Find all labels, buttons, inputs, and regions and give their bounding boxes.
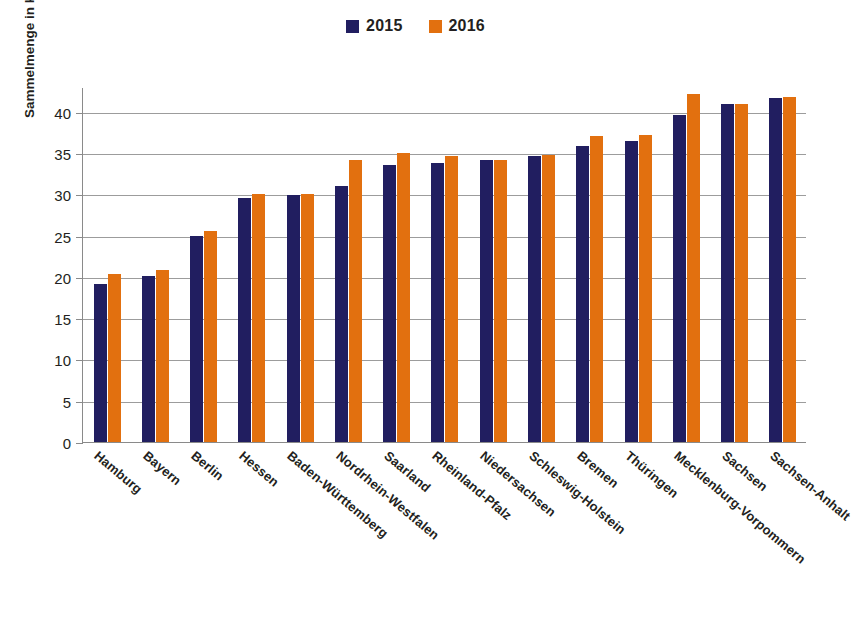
bar-group[interactable] (324, 88, 372, 442)
legend-swatch-2016 (429, 20, 442, 33)
y-tick-label: 40 (54, 104, 71, 121)
y-tick-mark (76, 154, 83, 155)
bar-2016[interactable] (108, 274, 121, 442)
bar-2016[interactable] (590, 136, 603, 442)
bar-2015[interactable] (625, 141, 638, 442)
legend-item-2016[interactable]: 2016 (429, 18, 485, 34)
y-tick-label: 30 (54, 187, 71, 204)
y-tick-label: 5 (63, 393, 71, 410)
bar-group[interactable] (566, 88, 614, 442)
y-tick-mark (76, 278, 83, 279)
bar-group[interactable] (131, 88, 179, 442)
bar-group[interactable] (83, 88, 131, 442)
chart-legend: 2015 2016 (0, 18, 831, 34)
bar-2015[interactable] (480, 160, 493, 442)
bar-group[interactable] (517, 88, 565, 442)
bar-2016[interactable] (445, 156, 458, 442)
bar-2015[interactable] (142, 276, 155, 442)
legend-label-2016: 2016 (449, 18, 485, 34)
bar-2016[interactable] (301, 194, 314, 443)
bar-2015[interactable] (190, 236, 203, 442)
y-tick-label: 25 (54, 228, 71, 245)
bar-group[interactable] (469, 88, 517, 442)
bar-2015[interactable] (287, 195, 300, 442)
bar-2015[interactable] (528, 156, 541, 442)
bar-2015[interactable] (431, 163, 444, 442)
y-tick-label: 20 (54, 269, 71, 286)
y-tick-mark (76, 443, 83, 444)
y-tick-mark (76, 237, 83, 238)
x-axis-labels: HamburgBayernBerlinHessenBaden-Württembe… (82, 448, 806, 623)
bar-group[interactable] (421, 88, 469, 442)
legend-label-2015: 2015 (366, 18, 402, 34)
x-axis-label: Berlin (188, 448, 226, 484)
bar-2015[interactable] (769, 98, 782, 442)
bar-2015[interactable] (673, 115, 686, 442)
bar-2016[interactable] (156, 270, 169, 442)
plot-area: 4035302520151050 (82, 88, 806, 443)
bar-2015[interactable] (576, 146, 589, 442)
bar-2016[interactable] (735, 104, 748, 442)
bar-2015[interactable] (238, 198, 251, 442)
bar-group[interactable] (180, 88, 228, 442)
bar-2015[interactable] (383, 165, 396, 442)
bar-2016[interactable] (494, 160, 507, 442)
y-tick-mark (76, 402, 83, 403)
bar-group[interactable] (614, 88, 662, 442)
legend-swatch-2015 (346, 20, 359, 33)
bars-layer (83, 88, 806, 442)
bar-2015[interactable] (94, 284, 107, 442)
bar-group[interactable] (662, 88, 710, 442)
plot-wrapper: 4035302520151050 (82, 88, 806, 443)
bar-2016[interactable] (687, 94, 700, 442)
y-axis-title: Sammelmenge in kg/E*a (22, 0, 37, 118)
bar-2016[interactable] (639, 135, 652, 442)
bar-2016[interactable] (252, 194, 265, 442)
bar-group[interactable] (710, 88, 758, 442)
x-axis-label: Hessen (236, 448, 282, 490)
y-tick-mark (76, 113, 83, 114)
bar-group[interactable] (228, 88, 276, 442)
bar-group[interactable] (373, 88, 421, 442)
bar-2015[interactable] (721, 104, 734, 442)
legend-item-2015[interactable]: 2015 (346, 18, 402, 34)
bar-2016[interactable] (542, 155, 555, 442)
x-axis-label: Bayern (140, 448, 184, 488)
bar-group[interactable] (759, 88, 807, 442)
y-tick-label: 0 (63, 435, 71, 452)
x-axis-label: Sachsen-Anhalt (767, 448, 853, 524)
y-tick-label: 35 (54, 146, 71, 163)
bar-2015[interactable] (335, 186, 348, 442)
x-axis-label: Bremen (574, 448, 621, 491)
bar-2016[interactable] (397, 153, 410, 442)
x-axis-label: Hamburg (92, 448, 146, 497)
y-tick-mark (76, 195, 83, 196)
y-tick-mark (76, 319, 83, 320)
bar-2016[interactable] (349, 160, 362, 442)
x-axis-label: Rheinland-Pfalz (430, 448, 515, 523)
bar-2016[interactable] (204, 231, 217, 442)
bar-group[interactable] (276, 88, 324, 442)
y-tick-label: 15 (54, 311, 71, 328)
y-tick-label: 10 (54, 352, 71, 369)
bar-2016[interactable] (783, 97, 796, 442)
y-tick-mark (76, 360, 83, 361)
